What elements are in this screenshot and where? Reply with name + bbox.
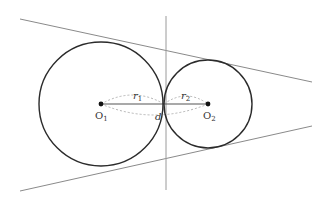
label-r1: r1 (133, 90, 142, 103)
label-d: d (155, 111, 161, 122)
label-o2: O2 (203, 110, 216, 123)
center-point-o1 (99, 102, 104, 107)
center-point-o2 (206, 102, 211, 107)
tangent-circles-diagram: O1 O2 r1 r2 d (0, 0, 329, 206)
label-o1: O1 (95, 110, 108, 123)
label-r2: r2 (181, 90, 190, 103)
